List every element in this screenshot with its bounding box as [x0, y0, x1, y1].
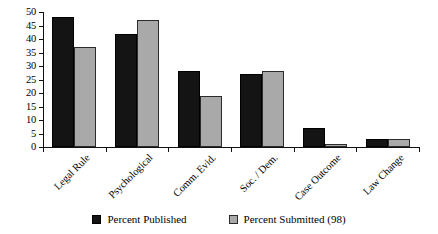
bar-submitted-3 — [262, 71, 284, 147]
bar-chart: 05101520253035404550 Legal RulePsycholog… — [0, 0, 438, 234]
bar-published-5 — [366, 139, 388, 147]
y-tick-label: 50 — [26, 7, 36, 17]
y-tick-label: 10 — [26, 115, 36, 125]
category-label-5: Law Change — [361, 152, 406, 197]
y-tick-label: 45 — [26, 21, 36, 31]
bar-published-0 — [52, 17, 74, 147]
category-label-1: Psychological — [106, 152, 155, 201]
legend-label-published: Percent Published — [107, 213, 186, 225]
category-label-0: Legal Rule — [52, 152, 92, 192]
chart-legend: Percent Published Percent Submitted (98) — [0, 208, 438, 230]
x-axis-category-labels: Legal RulePsychologicalComm. Evid.Soc. /… — [43, 152, 420, 206]
bar-submitted-2 — [200, 96, 222, 147]
y-tick-label: 20 — [26, 88, 36, 98]
bar-submitted-1 — [137, 20, 159, 147]
legend-label-submitted: Percent Submitted (98) — [244, 213, 346, 225]
legend-item-submitted: Percent Submitted (98) — [229, 213, 346, 225]
legend-item-published: Percent Published — [92, 213, 186, 225]
legend-swatch-icon-published — [92, 215, 101, 224]
category-label-3: Soc. / Dem. — [238, 152, 280, 194]
bar-published-3 — [240, 74, 262, 147]
bar-published-2 — [178, 71, 200, 147]
y-tick-label: 25 — [26, 75, 36, 85]
y-tick-label: 5 — [31, 129, 36, 139]
plot-area — [43, 12, 419, 147]
y-axis: 05101520253035404550 — [0, 12, 43, 148]
legend-swatch-icon-submitted — [229, 215, 238, 224]
y-tick-label: 0 — [31, 142, 36, 152]
y-tick-label: 30 — [26, 61, 36, 71]
y-tick-label: 35 — [26, 48, 36, 58]
y-tick-label: 15 — [26, 102, 36, 112]
category-label-4: Case Outcome — [292, 152, 342, 202]
bar-published-4 — [303, 128, 325, 147]
y-tick-label: 40 — [26, 34, 36, 44]
bar-submitted-5 — [388, 139, 410, 147]
category-label-2: Comm. Evid. — [171, 152, 218, 199]
bar-submitted-0 — [74, 47, 96, 147]
bar-published-1 — [115, 34, 137, 147]
